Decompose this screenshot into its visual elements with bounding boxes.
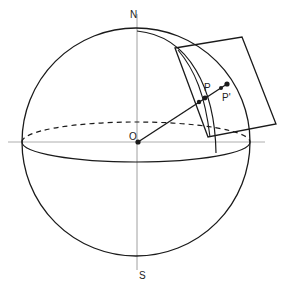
point-p-prime-inner [219,86,223,90]
sphere-surface-point [197,100,201,104]
sphere-diagram: N S O P P' [0,0,291,286]
point-p-prime [224,81,229,86]
label-p: P [204,82,211,93]
label-p-prime: P' [222,92,231,103]
tangent-plane [175,37,276,137]
label-origin: O [129,131,137,142]
point-p [203,96,208,101]
label-south: S [139,270,146,281]
label-north: N [130,9,137,20]
